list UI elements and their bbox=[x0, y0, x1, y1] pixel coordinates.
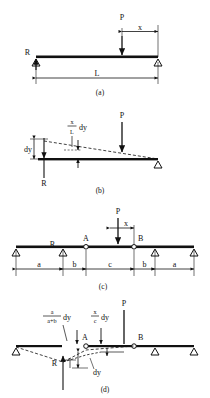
panel-b: R dy x L dy P (b) bbox=[24, 111, 162, 195]
reaction-label-d: R bbox=[52, 359, 58, 368]
ordinate-fraction-right-d: x c dy bbox=[91, 308, 109, 324]
hinge-B-c bbox=[132, 245, 137, 250]
x-dimension-label-c: x bbox=[124, 219, 128, 228]
beam-member-a bbox=[36, 56, 158, 59]
reaction-label-b: R bbox=[41, 179, 47, 188]
right-frac-numerator-d: x bbox=[93, 308, 97, 315]
beam-segment-left-d bbox=[16, 345, 62, 347]
dim-label-b2-c: b bbox=[143, 260, 147, 269]
support-triangle-right-b bbox=[154, 161, 162, 168]
beam-influence-line-figure: R P x L (a) R dy x bbox=[0, 0, 210, 398]
dy-leader-d bbox=[90, 358, 94, 369]
panel-caption-d: (d) bbox=[101, 385, 110, 394]
beam-member-b bbox=[38, 158, 158, 160]
dim-label-a1-c: a bbox=[37, 260, 41, 269]
right-frac-denominator-d: c bbox=[94, 317, 97, 324]
load-label-b: P bbox=[120, 111, 125, 120]
hinge-A-c bbox=[84, 245, 89, 250]
ordinate-fraction-b: x L dy bbox=[68, 118, 88, 135]
dy-label-b: dy bbox=[24, 145, 32, 154]
support-triangle-1-d bbox=[12, 348, 20, 355]
left-frac-numerator-d: a bbox=[51, 308, 54, 315]
dim-label-c-c: c bbox=[108, 260, 112, 269]
panel-caption-b: (b) bbox=[96, 186, 105, 195]
ordinate-fraction-left-d: a a+b dy bbox=[43, 308, 71, 324]
panel-c: R A B P x a b c b bbox=[12, 207, 198, 291]
load-label-a: P bbox=[120, 13, 125, 22]
panel-a: R P x L (a) bbox=[25, 13, 162, 97]
ordinate-denominator-b: L bbox=[70, 128, 74, 135]
hinge-B-label-c: B bbox=[138, 234, 143, 243]
virtual-displacement-inner-d bbox=[63, 352, 101, 362]
left-frac-denominator-d: a+b bbox=[47, 317, 56, 324]
dy-label-d: dy bbox=[93, 368, 101, 377]
load-label-c: P bbox=[116, 207, 121, 216]
dim-label-b1-c: b bbox=[73, 260, 77, 269]
panel-d: A B R dy a a+b dy x c dy bbox=[12, 299, 198, 394]
hinge-A-d bbox=[84, 344, 89, 349]
hinge-A-label-c: A bbox=[83, 234, 89, 243]
support-triangle-2-d bbox=[151, 348, 159, 355]
left-frac-leader-d bbox=[63, 325, 67, 341]
reaction-label-c: R bbox=[50, 240, 56, 249]
support-triangle-3-d bbox=[190, 348, 198, 355]
figure-root: R P x L (a) R dy x bbox=[0, 0, 210, 398]
dim-label-a2-c: a bbox=[173, 260, 177, 269]
panel-caption-c: (c) bbox=[99, 282, 108, 291]
beam-segment-right-d bbox=[86, 345, 194, 347]
x-dimension-label-a: x bbox=[138, 23, 142, 32]
hinge-B-label-d: B bbox=[138, 333, 143, 342]
virtual-displacement-line-b bbox=[44, 141, 158, 159]
panel-caption-a: (a) bbox=[96, 88, 105, 97]
virtual-displacement-shape-d bbox=[16, 346, 134, 362]
hinge-A-label-d: A bbox=[82, 333, 88, 342]
ordinate-numerator-b: x bbox=[70, 118, 74, 125]
beam-member-c bbox=[16, 246, 194, 249]
reaction-label-a: R bbox=[25, 48, 31, 57]
L-dimension-label-a: L bbox=[95, 69, 100, 78]
right-frac-suffix-d: dy bbox=[101, 313, 109, 322]
left-frac-suffix-d: dy bbox=[63, 313, 71, 322]
dimension-chain-c: a b c b a bbox=[16, 250, 194, 276]
load-label-d: P bbox=[122, 299, 127, 308]
ordinate-suffix-b: dy bbox=[79, 123, 87, 132]
